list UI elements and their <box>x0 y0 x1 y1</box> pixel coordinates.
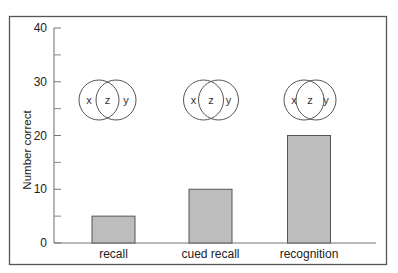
bar-cued-recall <box>189 189 232 243</box>
bar-chart: Number correct 010203040 xzyxzyxzy recal… <box>0 0 398 273</box>
venn-label-y: y <box>226 94 232 106</box>
y-tick-label: 30 <box>34 75 48 89</box>
venn-label-z: z <box>307 94 313 106</box>
y-tick-label: 10 <box>34 182 48 196</box>
venn-label-x: x <box>191 94 197 106</box>
venn-label-z: z <box>208 94 214 106</box>
venn-label-y: y <box>123 94 129 106</box>
bar-recognition <box>288 136 331 244</box>
bar-recall <box>92 216 135 243</box>
venn-label-y: y <box>323 94 329 106</box>
x-category-label: recognition <box>280 247 339 261</box>
y-tick-label: 20 <box>34 129 48 143</box>
y-tick-label: 40 <box>34 21 48 35</box>
x-category-label: recall <box>99 247 128 261</box>
x-category-label: cued recall <box>181 247 239 261</box>
y-axis-title: Number correct <box>21 110 33 190</box>
venn-label-x: x <box>86 94 92 106</box>
venn-label-x: x <box>291 94 297 106</box>
y-tick-label: 0 <box>40 236 47 250</box>
venn-label-z: z <box>105 94 111 106</box>
